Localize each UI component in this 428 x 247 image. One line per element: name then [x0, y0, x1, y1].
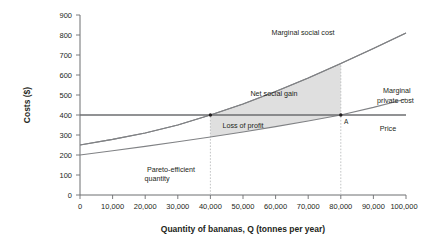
x-tick-label: 20,000	[134, 202, 157, 211]
net-social-gain-label: Net social gain	[250, 89, 297, 98]
x-tick-label: 50,000	[232, 202, 255, 211]
y-tick-label: 700	[59, 51, 72, 60]
y-tick-label: 900	[59, 11, 72, 20]
y-tick-label: 300	[59, 131, 72, 140]
y-tick-label: 600	[59, 71, 72, 80]
y-tick-label: 400	[59, 111, 72, 120]
x-tick-label: 40,000	[199, 202, 222, 211]
x-tick-label: 0	[78, 202, 82, 211]
y-tick-label: 500	[59, 91, 72, 100]
x-tick-label: 80,000	[329, 202, 352, 211]
marginal-private-cost-label-line1: Marginal	[383, 86, 411, 95]
x-axis-ticks	[80, 195, 406, 199]
point-a-label: A	[344, 118, 349, 125]
y-tick-label: 100	[59, 171, 72, 180]
loss-of-profit-label: Loss of profit	[222, 121, 263, 130]
marginal-social-cost-label: Marginal social cost	[271, 28, 334, 37]
pareto-efficient-quantity-label-line1: Pareto-efficient	[147, 165, 195, 174]
x-axis-tick-labels: 0 10,000 20,000 30,000 40,000 50,000 60,…	[78, 202, 418, 211]
x-tick-label: 10,000	[101, 202, 124, 211]
price-label: Price	[380, 124, 396, 133]
y-axis-title: Costs ($)	[22, 87, 32, 124]
x-tick-label: 60,000	[264, 202, 287, 211]
x-tick-label: 70,000	[297, 202, 320, 211]
economics-externality-chart: 0 100 200 300 400 500 600 700 800 900	[0, 0, 428, 247]
pareto-efficient-point	[209, 113, 212, 116]
y-tick-label: 200	[59, 151, 72, 160]
y-axis-tick-labels: 0 100 200 300 400 500 600 700 800 900	[59, 11, 72, 200]
x-tick-label: 30,000	[166, 202, 189, 211]
chart-svg: 0 100 200 300 400 500 600 700 800 900	[0, 0, 428, 247]
pareto-efficient-quantity-label-line2: quantity	[144, 174, 170, 183]
x-tick-label: 90,000	[362, 202, 385, 211]
series-curves	[80, 33, 406, 155]
x-axis-title: Quantity of bananas, Q (tonnes per year)	[161, 224, 326, 234]
y-tick-label: 800	[59, 31, 72, 40]
market-equilibrium-point-a	[339, 113, 342, 116]
marginal-private-cost-label-line2: private cost	[377, 96, 414, 105]
y-tick-label: 0	[68, 191, 72, 200]
y-axis-ticks	[76, 15, 80, 195]
x-tick-label: 100,000	[390, 202, 417, 211]
